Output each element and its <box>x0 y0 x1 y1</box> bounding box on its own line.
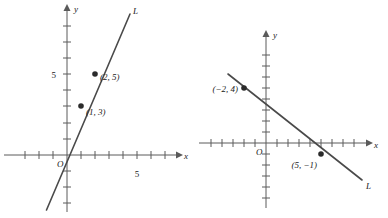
graph-panel-left: x y O 5 5 (2, 5) (1, 3) L <box>0 0 194 218</box>
x-axis-arrow-right <box>366 140 373 147</box>
origin-label-left: O <box>57 159 64 169</box>
data-point <box>241 85 247 91</box>
point-label-2-5: (2, 5) <box>100 72 120 82</box>
coordinate-plane-left: x y O 5 5 (2, 5) (1, 3) L <box>0 0 194 218</box>
coordinate-plane-right: x y O (−2, 4) (5, −1) L <box>194 0 388 218</box>
y-axis-label-left: y <box>73 4 78 14</box>
x-axis-label-right: x <box>373 140 378 150</box>
y-axis-label-right: y <box>272 30 277 40</box>
y-axis-arrow-right <box>263 30 270 37</box>
point-label-minus2-4: (−2, 4) <box>212 84 238 94</box>
point-label-1-3: (1, 3) <box>86 107 106 117</box>
line-label-L-left: L <box>132 6 138 16</box>
x-tick-label-5-left: 5 <box>135 169 140 179</box>
x-axis-arrow-left <box>176 152 183 159</box>
x-axis-label-left: x <box>183 151 188 161</box>
point-label-5-minus1: (5, −1) <box>291 160 317 170</box>
line-label-L-right: L <box>365 181 371 191</box>
data-point <box>92 71 98 77</box>
data-point <box>318 151 324 157</box>
origin-label-right: O <box>256 147 263 157</box>
data-point <box>78 103 84 109</box>
graph-panel-right: x y O (−2, 4) (5, −1) L <box>194 0 388 218</box>
y-tick-label-5-left: 5 <box>52 70 57 80</box>
y-axis-arrow-left <box>64 4 71 11</box>
two-graph-figure: x y O 5 5 (2, 5) (1, 3) L <box>0 0 388 218</box>
